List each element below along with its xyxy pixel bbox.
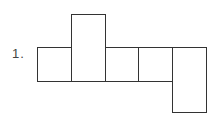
net-cell-3 — [105, 47, 139, 82]
problem-number: 1. — [12, 46, 25, 61]
net-cell-2-tall — [71, 14, 106, 82]
net-cell-5-tall — [172, 47, 207, 113]
net-cell-4 — [138, 47, 173, 82]
net-cell-1 — [37, 47, 72, 82]
